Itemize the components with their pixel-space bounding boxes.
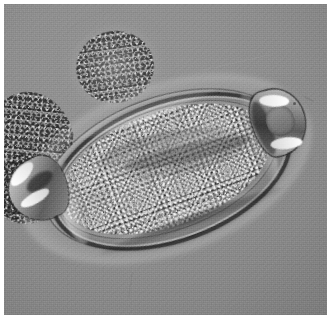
- photograph-print: [0, 0, 334, 321]
- film-grain-layer-soft: [4, 4, 327, 315]
- micrograph-image-field: [4, 4, 327, 315]
